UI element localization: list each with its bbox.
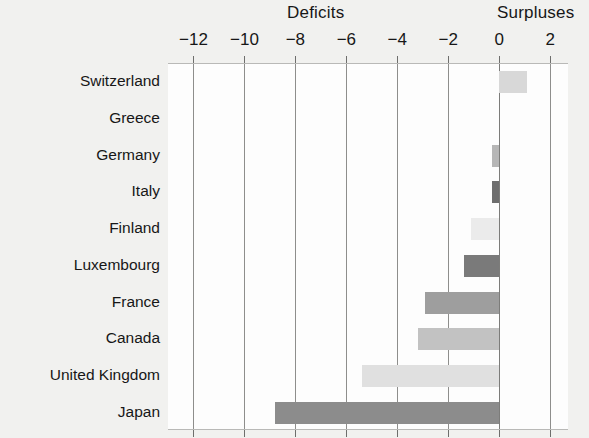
y-label-germany: Germany [96, 147, 160, 163]
x-tick-label-7: 2 [545, 30, 554, 50]
y-label-finland: Finland [109, 220, 160, 236]
gridline-1 [244, 64, 245, 429]
y-label-canada: Canada [106, 330, 160, 346]
bar-canada [418, 328, 500, 350]
y-label-luxembourg: Luxembourg [74, 257, 160, 273]
tick-mark-0 [193, 56, 194, 63]
tick-mark-4 [397, 56, 398, 63]
zero-gridline [499, 64, 500, 429]
y-label-united-kingdom: United Kingdom [50, 367, 160, 383]
tick-mark-2 [295, 56, 296, 63]
y-label-switzerland: Switzerland [80, 73, 160, 89]
surpluses-section-title: Surpluses [497, 3, 574, 23]
tick-mark-0 [193, 430, 194, 437]
y-label-france: France [112, 294, 160, 310]
x-tick-label-5: −2 [439, 30, 458, 50]
tick-mark-3 [346, 56, 347, 63]
bar-luxembourg [464, 255, 500, 277]
x-tick-label-0: −12 [179, 30, 208, 50]
deficits-section-title: Deficits [287, 3, 344, 23]
tick-mark-5 [448, 430, 449, 437]
y-label-japan: Japan [118, 404, 160, 420]
gridline-3 [346, 64, 347, 429]
deficits-surpluses-bar-chart: Deficits Surpluses −12−10−8−6−4−202 Swit… [0, 0, 589, 438]
bar-italy [492, 181, 500, 203]
bar-united-kingdom [362, 365, 500, 387]
y-label-greece: Greece [109, 110, 160, 126]
bar-japan [275, 402, 499, 424]
plot-area [168, 63, 568, 430]
bar-france [425, 292, 499, 314]
y-axis-category-labels: SwitzerlandGreeceGermanyItalyFinlandLuxe… [0, 63, 160, 430]
x-tick-label-3: −6 [337, 30, 356, 50]
bar-finland [471, 218, 499, 240]
bar-germany [492, 145, 500, 167]
tick-mark-2 [295, 430, 296, 437]
tick-mark-7 [550, 56, 551, 63]
bar-switzerland [499, 71, 527, 93]
tick-mark-7 [550, 430, 551, 437]
gridline-7 [550, 64, 551, 429]
tick-mark-1 [244, 430, 245, 437]
x-tick-label-6: 0 [494, 30, 503, 50]
tick-mark-4 [397, 430, 398, 437]
x-tick-label-4: −4 [388, 30, 407, 50]
x-tick-label-2: −8 [286, 30, 305, 50]
gridline-2 [295, 64, 296, 429]
tick-mark-6 [499, 430, 500, 437]
x-tick-label-1: −10 [230, 30, 259, 50]
tick-mark-6 [499, 56, 500, 63]
tick-mark-5 [448, 56, 449, 63]
y-label-italy: Italy [132, 183, 160, 199]
tick-mark-1 [244, 56, 245, 63]
gridline-0 [193, 64, 194, 429]
tick-mark-3 [346, 430, 347, 437]
